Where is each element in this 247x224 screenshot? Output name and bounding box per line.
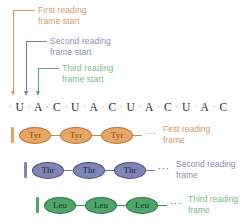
peptide-bond (133, 135, 142, 136)
first-frame-arrowhead-icon (11, 91, 15, 96)
third-frame-continuation: ··· (170, 198, 182, 208)
second-frame-start-line2: frame start (50, 47, 111, 58)
third-frame-start-tick (36, 197, 39, 213)
second-frame-peptide-chain: Thr Thr Thr ··· (32, 162, 173, 179)
rna-sequence: · U · A · C · U · A · C · U · A · C · U … (8, 98, 240, 116)
first-frame-start-line2: frame start (38, 16, 87, 27)
third-frame-caption-line1: Third reading (188, 194, 238, 204)
third-frame-leader-vertical (38, 68, 39, 92)
rna-separator: · (82, 101, 87, 112)
first-frame-leader-vertical (13, 10, 14, 92)
amino-acid-residue: Leu (44, 197, 76, 214)
amino-acid-residue: Thr (114, 162, 146, 179)
third-frame-arrowhead-icon (36, 91, 40, 96)
first-reading-frame-row: Tyr Tyr Tyr ··· (11, 122, 160, 148)
amino-acid-residue: Leu (126, 197, 158, 214)
second-reading-frame-caption: Second reading frame (176, 159, 236, 180)
rna-separator: · (64, 101, 69, 112)
rna-base: A (87, 101, 101, 113)
third-frame-caption-line2: frame (188, 205, 238, 216)
rna-base: U (124, 101, 138, 113)
rna-separator: · (119, 101, 124, 112)
rna-separator: · (27, 101, 32, 112)
first-frame-continuation: ··· (145, 128, 157, 138)
peptide-bond (158, 205, 167, 206)
rna-base: C (106, 101, 120, 113)
rna-separator: · (101, 101, 106, 112)
peptide-bond (146, 170, 155, 171)
first-reading-frame-caption: First reading frame (163, 124, 210, 145)
rna-base: U (180, 101, 194, 113)
third-reading-frame-row: Leu Leu Leu ··· (36, 192, 185, 218)
third-frame-leader-horizontal (38, 68, 59, 69)
amino-acid-residue: Tyr (101, 127, 133, 144)
rna-base: A (143, 101, 157, 113)
third-frame-start-line2: frame start (62, 74, 113, 85)
second-reading-frame-start-label: Second reading frame start (50, 36, 111, 57)
rna-base: C (217, 101, 231, 113)
amino-acid-residue: Thr (73, 162, 105, 179)
rna-separator: · (156, 101, 161, 112)
rna-separator: · (193, 101, 198, 112)
third-reading-frame-caption: Third reading frame (188, 194, 238, 215)
third-frame-peptide-chain: Leu Leu Leu ··· (44, 197, 185, 214)
amino-acid-residue: Tyr (60, 127, 92, 144)
first-frame-start-tick (11, 127, 14, 143)
rna-base: C (161, 101, 175, 113)
rna-base: A (198, 101, 212, 113)
peptide-bond (92, 135, 101, 136)
first-reading-frame-start-label: First reading frame start (38, 5, 87, 26)
first-frame-start-line1: First reading (38, 5, 87, 15)
second-frame-caption-line2: frame (176, 170, 236, 181)
first-frame-peptide-chain: Tyr Tyr Tyr ··· (19, 127, 160, 144)
rna-separator: · (212, 101, 217, 112)
second-frame-start-line1: Second reading (50, 36, 111, 46)
amino-acid-residue: Leu (85, 197, 117, 214)
second-frame-caption-line1: Second reading (176, 159, 236, 169)
amino-acid-residue: Tyr (19, 127, 51, 144)
third-reading-frame-start-label: Third reading frame start (62, 63, 113, 84)
peptide-bond (51, 135, 60, 136)
first-frame-caption-line2: frame (163, 135, 210, 146)
first-frame-caption-line1: First reading (163, 124, 210, 134)
second-frame-start-tick (24, 162, 27, 178)
third-frame-start-line1: Third reading (62, 63, 113, 73)
second-reading-frame-row: Thr Thr Thr ··· (24, 157, 173, 183)
rna-base: U (69, 101, 83, 113)
second-frame-continuation: ··· (158, 163, 170, 173)
rna-separator: · (8, 101, 13, 112)
rna-base: A (32, 101, 46, 113)
second-frame-leader-horizontal (26, 41, 47, 42)
peptide-bond (76, 205, 85, 206)
peptide-bond (64, 170, 73, 171)
second-frame-leader-vertical (26, 41, 27, 92)
amino-acid-residue: Thr (32, 162, 64, 179)
rna-base: U (13, 101, 27, 113)
peptide-bond (105, 170, 114, 171)
reading-frames-diagram: First reading frame start Second reading… (0, 0, 247, 224)
first-frame-leader-horizontal (13, 10, 35, 11)
second-frame-arrowhead-icon (24, 91, 28, 96)
rna-separator: · (175, 101, 180, 112)
rna-separator: · (138, 101, 143, 112)
rna-base: C (50, 101, 64, 113)
peptide-bond (117, 205, 126, 206)
rna-separator: · (45, 101, 50, 112)
